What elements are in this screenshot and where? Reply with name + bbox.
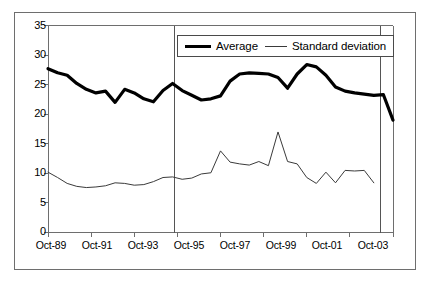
legend-entry-average: Average (185, 40, 258, 52)
legend-label-standard-deviation: Standard deviation (292, 40, 386, 52)
ytick-label-35: 35 (20, 20, 46, 31)
ytick-label-10: 10 (20, 167, 46, 178)
chart-root: 35 30 25 20 15 10 5 0 Oct-89 Oct-91 Oct-… (0, 0, 430, 284)
series-layer (48, 65, 393, 188)
series-line-standard-deviation (48, 132, 374, 188)
chart-legend: Average Standard deviation (177, 35, 394, 57)
ytick-label-20: 20 (20, 108, 46, 119)
ytick-label-25: 25 (20, 79, 46, 90)
series-line-average (48, 65, 393, 121)
ytick-label-15: 15 (20, 138, 46, 149)
ytick-label-5: 5 (20, 197, 46, 208)
axis-layer (44, 26, 393, 237)
xtick-label-oct03: Oct-03 (343, 240, 403, 251)
ytick-label-30: 30 (20, 49, 46, 60)
legend-swatch-stddev-icon (265, 46, 287, 47)
legend-label-average: Average (216, 40, 258, 52)
ytick-label-0: 0 (20, 226, 46, 237)
legend-swatch-average-icon (185, 45, 211, 48)
legend-entry-standard-deviation: Standard deviation (265, 40, 386, 52)
